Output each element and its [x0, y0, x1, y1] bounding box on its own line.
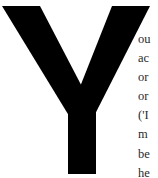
- document-page: ou ac or or ('I m be he: [0, 0, 158, 178]
- text-line-3: or: [138, 68, 158, 87]
- text-line-6: m: [138, 125, 158, 144]
- body-text-column: ou ac or or ('I m be he: [138, 30, 158, 178]
- text-line-1: ou: [138, 30, 158, 49]
- text-line-5: ('I: [138, 106, 158, 125]
- text-line-8: he: [138, 164, 158, 178]
- text-line-2: ac: [138, 49, 158, 68]
- text-line-4: or: [138, 87, 158, 106]
- drop-cap-y-glyph: [2, 6, 150, 174]
- drop-cap-letter: [2, 6, 150, 174]
- text-line-7: be: [138, 145, 158, 164]
